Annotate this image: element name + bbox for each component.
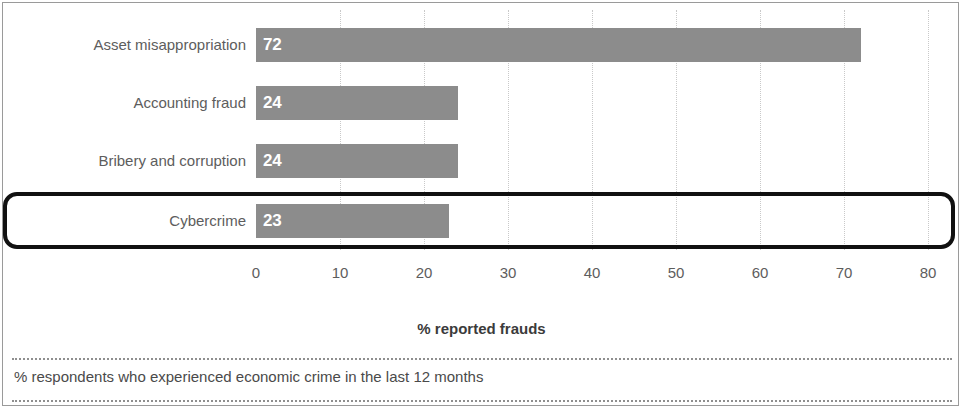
chart-figure: Asset misappropriation72Accounting fraud… (0, 0, 963, 410)
bar-value-label: 24 (263, 86, 282, 120)
bar-value-label: 72 (263, 28, 282, 62)
x-tick-label: 20 (404, 264, 444, 281)
bar: 72 (256, 28, 861, 62)
bar-value-label: 24 (263, 144, 282, 178)
bar-row: Asset misappropriation72 (0, 28, 963, 62)
x-tick-label: 0 (236, 264, 276, 281)
x-tick-label: 80 (908, 264, 948, 281)
x-axis: 01020304050607080 (0, 252, 963, 292)
highlight-box-cybercrime[interactable] (3, 192, 955, 249)
bar-row: Bribery and corruption24 (0, 144, 963, 178)
category-label: Bribery and corruption (0, 144, 246, 178)
category-label: Accounting fraud (0, 86, 246, 120)
plot-area: Asset misappropriation72Accounting fraud… (0, 0, 963, 250)
x-tick-label: 30 (488, 264, 528, 281)
x-tick-label: 10 (320, 264, 360, 281)
category-label: Asset misappropriation (0, 28, 246, 62)
x-tick-label: 60 (740, 264, 780, 281)
x-tick-label: 50 (656, 264, 696, 281)
x-tick-label: 40 (572, 264, 612, 281)
x-axis-title: % reported frauds (0, 320, 963, 337)
x-tick-label: 70 (824, 264, 864, 281)
footnote-band: % respondents who experienced economic c… (12, 358, 952, 402)
footnote-text: % respondents who experienced economic c… (14, 368, 483, 385)
bar: 24 (256, 86, 458, 120)
bar: 24 (256, 144, 458, 178)
bar-row: Accounting fraud24 (0, 86, 963, 120)
